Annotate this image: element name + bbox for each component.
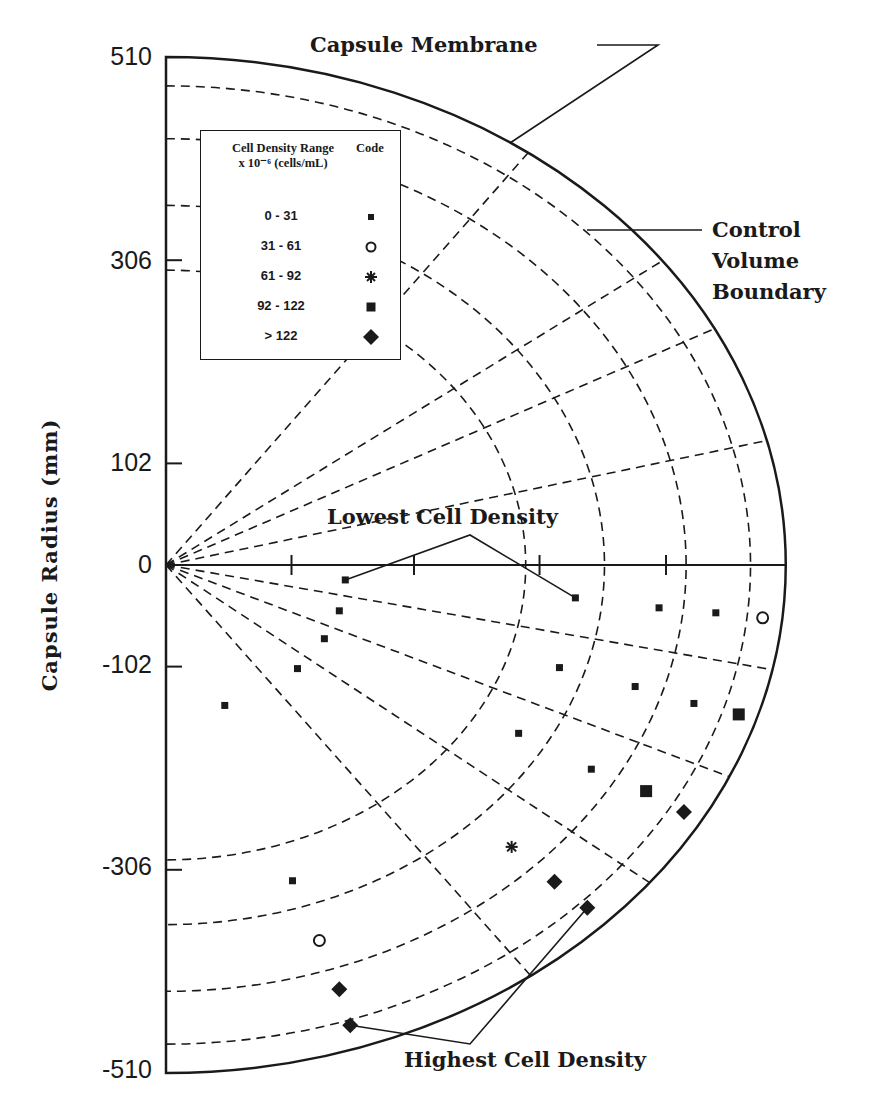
grid-radial-line: [166, 565, 650, 883]
capsule-membrane-label: Capsule Membrane: [310, 32, 538, 57]
open-circle-icon: [359, 233, 383, 261]
open-circle-marker: [757, 612, 768, 623]
diamond-marker: [331, 981, 347, 997]
large-square-icon: [359, 293, 383, 321]
small-square-marker: [656, 604, 663, 611]
grid-radial-line: [166, 565, 531, 976]
diamond-icon: [359, 323, 383, 351]
tick-510: 510: [32, 42, 152, 71]
small-square-marker: [690, 700, 697, 707]
legend-range: 92 - 122: [231, 298, 331, 313]
legend-row: 61 - 92: [201, 263, 400, 291]
cvb-line-2: Volume: [712, 245, 826, 276]
tick-0: 0: [32, 550, 152, 579]
small-square-marker: [336, 607, 343, 614]
legend-title-line: Cell Density Range: [213, 141, 353, 156]
tick-neg510: -510: [32, 1055, 152, 1084]
capsule-membrane-leader: [510, 45, 658, 143]
legend-range: 61 - 92: [231, 268, 331, 283]
large-square-marker: [733, 708, 745, 720]
tick-neg102: -102: [32, 650, 152, 679]
highest-density-leader: [350, 908, 587, 1044]
legend: Cell Density Range x 10⁻⁶ (cells/mL) Cod…: [200, 130, 401, 360]
legend-code-header: Code: [356, 141, 384, 156]
open-circle-marker: [314, 935, 325, 946]
lowest-cell-density-label: Lowest Cell Density: [327, 504, 558, 529]
small-square-marker: [632, 683, 639, 690]
legend-row: > 122: [201, 323, 400, 351]
asterisk-marker: [506, 841, 518, 853]
legend-title: Cell Density Range x 10⁻⁶ (cells/mL): [213, 141, 353, 171]
data-points: [221, 576, 768, 1033]
small-square-marker: [289, 877, 296, 884]
grid-radial-line: [166, 329, 715, 565]
legend-row: 92 - 122: [201, 293, 400, 321]
tick-102: 102: [32, 448, 152, 477]
control-volume-boundary-label: Control Volume Boundary: [712, 214, 826, 307]
small-square-marker: [515, 730, 522, 737]
tick-neg306: -306: [32, 852, 152, 881]
diamond-marker: [676, 804, 692, 820]
legend-range: 31 - 61: [231, 238, 331, 253]
small-square-marker: [221, 702, 228, 709]
diamond-marker: [342, 1017, 358, 1033]
cvb-line-3: Boundary: [712, 276, 826, 307]
legend-row: 31 - 61: [201, 233, 400, 261]
small-square-marker: [321, 635, 328, 642]
small-square-marker: [294, 665, 301, 672]
legend-range: 0 - 31: [231, 208, 331, 223]
small-square-marker: [712, 609, 719, 616]
tick-306: 306: [32, 246, 152, 275]
legend-row: 0 - 31: [201, 203, 400, 231]
lowest-density-leader: [345, 535, 575, 598]
legend-subtitle: x 10⁻⁶ (cells/mL): [213, 156, 353, 171]
large-square-marker: [640, 785, 652, 797]
asterisk-icon: [359, 263, 383, 291]
small-square-icon: [359, 203, 383, 231]
small-square-marker: [588, 766, 595, 773]
small-square-marker: [572, 594, 579, 601]
diamond-marker: [546, 874, 562, 890]
legend-range: > 122: [231, 328, 331, 343]
highest-cell-density-label: Highest Cell Density: [404, 1047, 646, 1072]
cvb-line-1: Control: [712, 214, 826, 245]
small-square-marker: [342, 576, 349, 583]
grid-radial-line: [166, 441, 767, 565]
grid-radial-line: [166, 565, 729, 777]
small-square-marker: [556, 664, 563, 671]
